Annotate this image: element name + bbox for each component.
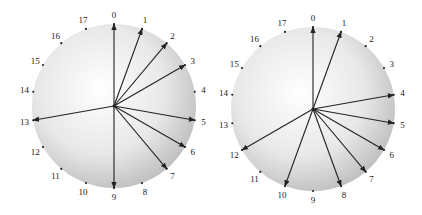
- position-label: 4: [400, 88, 405, 98]
- position-label: 12: [230, 150, 239, 160]
- position-label: 9: [311, 195, 316, 205]
- phasor-diagrams: 01234567891011121314151617 0123456789101…: [0, 0, 422, 215]
- position-dot: [85, 182, 87, 184]
- position-dot: [365, 45, 367, 47]
- position-label: 14: [20, 85, 30, 95]
- position-label: 4: [201, 85, 206, 95]
- position-label: 0: [311, 13, 316, 23]
- position-label: 9: [112, 192, 117, 202]
- position-label: 10: [78, 187, 88, 197]
- position-dot: [32, 91, 34, 93]
- position-dot: [194, 91, 196, 93]
- position-label: 0: [112, 10, 117, 20]
- position-label: 13: [20, 117, 30, 127]
- position-label: 17: [277, 18, 287, 28]
- position-label: 2: [170, 31, 175, 41]
- position-label: 1: [143, 15, 148, 25]
- position-dot: [241, 67, 243, 69]
- position-label: 14: [219, 88, 229, 98]
- left-circle-diagram: 01234567891011121314151617: [20, 10, 206, 202]
- position-label: 16: [250, 34, 260, 44]
- position-label: 17: [78, 15, 88, 25]
- position-label: 15: [230, 59, 240, 69]
- center-dot: [311, 107, 314, 110]
- position-dot: [231, 94, 233, 96]
- position-label: 16: [51, 31, 61, 41]
- position-label: 5: [400, 120, 405, 130]
- position-label: 11: [51, 171, 60, 181]
- position-dot: [85, 28, 87, 30]
- position-label: 6: [390, 150, 395, 160]
- position-dot: [383, 67, 385, 69]
- position-dot: [141, 182, 143, 184]
- position-dot: [60, 168, 62, 170]
- position-label: 8: [143, 187, 148, 197]
- position-dot: [231, 122, 233, 124]
- position-label: 12: [31, 147, 40, 157]
- center-dot: [112, 104, 115, 107]
- position-dot: [42, 64, 44, 66]
- position-label: 6: [191, 147, 196, 157]
- position-label: 7: [369, 174, 374, 184]
- position-label: 2: [369, 34, 374, 44]
- position-label: 1: [342, 18, 347, 28]
- position-label: 11: [250, 174, 259, 184]
- position-dot: [42, 146, 44, 148]
- position-dot: [312, 190, 314, 192]
- position-dot: [284, 31, 286, 33]
- position-label: 3: [191, 56, 196, 66]
- position-label: 5: [201, 117, 206, 127]
- position-label: 3: [390, 59, 395, 69]
- position-dot: [259, 45, 261, 47]
- position-dot: [259, 171, 261, 173]
- position-label: 13: [219, 120, 229, 130]
- right-circle-diagram: 01234567891011121314151617: [219, 13, 405, 205]
- position-label: 15: [31, 56, 41, 66]
- position-label: 10: [277, 190, 287, 200]
- position-label: 8: [342, 190, 347, 200]
- position-label: 7: [170, 171, 175, 181]
- position-dot: [60, 42, 62, 44]
